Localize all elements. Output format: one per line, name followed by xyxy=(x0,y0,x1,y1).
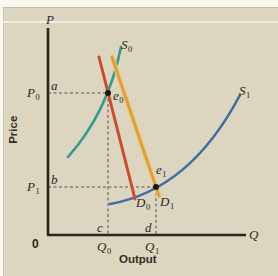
equilibrium-point-e0 xyxy=(105,90,111,96)
curve-label-d0: D0 xyxy=(136,196,150,209)
axis-point-label-b: b xyxy=(51,173,58,186)
x-axis-title: Output xyxy=(119,254,157,266)
y-axis-var-label: P xyxy=(46,13,54,26)
axis-point-label-d: d xyxy=(145,221,152,234)
curve-label-s1: S1 xyxy=(239,84,250,97)
axis-point-label-a: a xyxy=(51,79,58,92)
y-axis-title: Price xyxy=(8,110,20,150)
supply-demand-plot xyxy=(0,0,278,276)
demand-curve-d1 xyxy=(112,57,159,196)
point-label-e1: e1 xyxy=(156,163,166,176)
x-axis-var-label: Q xyxy=(249,228,258,241)
equilibrium-point-e1 xyxy=(153,184,159,190)
quantity-label-q0: Q0 xyxy=(97,240,111,253)
figure: P Q Price Output 0 S0 S1 D0 D1 e0 e1 P0 … xyxy=(0,0,278,276)
price-label-p1: P1 xyxy=(27,180,39,193)
quantity-label-q1: Q1 xyxy=(145,240,159,253)
origin-label: 0 xyxy=(32,238,39,250)
price-label-p0: P0 xyxy=(27,86,39,99)
curve-label-d1: D1 xyxy=(160,195,174,208)
point-label-e0: e0 xyxy=(113,89,123,102)
axis-point-label-c: c xyxy=(97,221,103,234)
curve-label-s0: S0 xyxy=(121,38,132,51)
